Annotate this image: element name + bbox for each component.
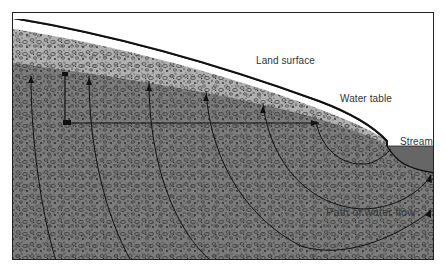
diagram-frame bbox=[12, 12, 434, 260]
path-of-water-flow-label: Path of water flow bbox=[326, 206, 415, 218]
water-table-label: Water table bbox=[340, 93, 392, 104]
stream-label: Stream bbox=[400, 136, 433, 147]
groundwater-cross-section bbox=[13, 13, 434, 260]
land-surface-label: Land surface bbox=[256, 55, 315, 66]
